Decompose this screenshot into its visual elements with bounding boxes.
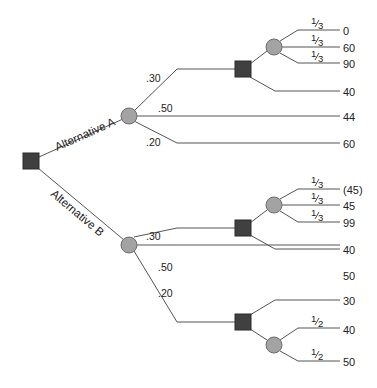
edge-b-020	[134, 251, 236, 322]
chance-node-b	[121, 237, 137, 253]
fraction-a1-c1: 1 3	[311, 15, 323, 31]
prob-b-020: .20	[158, 287, 173, 299]
svg-text:1: 1	[311, 190, 316, 201]
payoff-b2-c2: 50	[343, 356, 355, 368]
decision-node-b2	[235, 314, 251, 330]
edges	[38, 30, 340, 361]
edge-b1-c1	[280, 189, 340, 199]
svg-text:1: 1	[311, 32, 316, 43]
fraction-a1-c3: 1 3	[311, 48, 323, 64]
payoff-b-050: 50	[343, 270, 355, 282]
svg-text:2: 2	[318, 318, 323, 329]
edge-b1-to-chance	[250, 210, 267, 223]
decision-node-a1	[235, 61, 251, 77]
fraction-b1-c1: 1 3	[311, 174, 323, 190]
chance-node-b2	[266, 337, 282, 353]
svg-text:3: 3	[318, 53, 323, 64]
edge-b1-d	[250, 235, 340, 249]
svg-text:3: 3	[318, 212, 323, 223]
edge-a1-d	[250, 77, 340, 91]
fraction-b2-c2: 1 2	[311, 346, 323, 362]
payoff-a1-c2: 60	[343, 42, 355, 54]
payoff-a1-c1: 0	[343, 25, 349, 37]
prob-b-050: .50	[158, 261, 173, 273]
payoff-b1-c2: 45	[343, 200, 355, 212]
edge-b2-d	[250, 300, 340, 315]
payoff-labels: 0 60 90 40 44 60 (45) 45 99 40 50 30 40 …	[343, 25, 363, 368]
svg-text:3: 3	[318, 20, 323, 31]
fraction-b1-c3: 1 3	[311, 207, 323, 223]
payoff-a1-d: 40	[343, 86, 355, 98]
fraction-b2-c1: 1 2	[311, 313, 323, 329]
svg-text:1: 1	[311, 207, 316, 218]
edge-b2-c1	[280, 328, 340, 340]
chance-node-b1	[266, 197, 282, 213]
payoff-a-020: 60	[343, 138, 355, 150]
decision-tree: Alternative A Alternative B .30 .50 .20 …	[0, 0, 377, 388]
alternative-a-label: Alternative A	[53, 115, 117, 152]
alternative-b-label: Alternative B	[49, 187, 107, 238]
svg-text:1: 1	[311, 346, 316, 357]
chance-node-a1	[266, 39, 282, 55]
payoff-a1-c3: 90	[343, 58, 355, 70]
svg-text:3: 3	[318, 37, 323, 48]
edge-b2-c2	[280, 351, 340, 361]
edge-a1-c1	[280, 30, 340, 41]
svg-text:1: 1	[311, 174, 316, 185]
payoff-a-050: 44	[343, 111, 355, 123]
svg-text:2: 2	[318, 351, 323, 362]
payoff-b1-c3: 99	[343, 217, 355, 229]
root-decision-node	[23, 153, 39, 169]
payoff-b1-d: 40	[343, 244, 355, 256]
prob-b-030: .30	[146, 230, 161, 242]
edge-b2-to-chance	[250, 329, 267, 340]
edge-b1-c3	[280, 211, 340, 222]
fraction-a1-c2: 1 3	[311, 32, 323, 48]
svg-text:1: 1	[311, 313, 316, 324]
svg-text:3: 3	[318, 195, 323, 206]
payoff-b2-c1: 40	[343, 324, 355, 336]
prob-a-030: .30	[146, 72, 161, 84]
payoff-b2-d: 30	[343, 295, 355, 307]
edge-a1-c3	[280, 53, 340, 63]
svg-text:1: 1	[311, 15, 316, 26]
prob-a-020: .20	[146, 136, 161, 148]
edge-a-020	[134, 121, 340, 143]
svg-text:3: 3	[318, 179, 323, 190]
decision-node-b1	[235, 220, 251, 236]
edge-alternative-b	[38, 168, 124, 240]
payoff-b1-c1: (45)	[343, 184, 363, 196]
chance-node-a	[121, 108, 137, 124]
prob-a-050: .50	[158, 102, 173, 114]
edge-a1-to-chance	[250, 51, 267, 64]
fraction-b1-c2: 1 3	[311, 190, 323, 206]
svg-text:1: 1	[311, 48, 316, 59]
